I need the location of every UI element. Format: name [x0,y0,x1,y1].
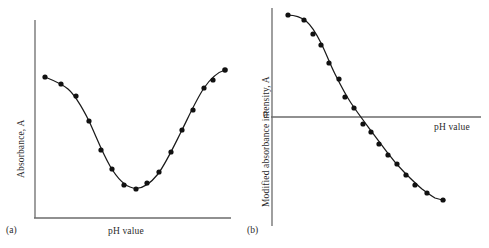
data-point [201,85,206,90]
data-points-a [42,67,227,191]
data-point [210,77,215,82]
data-point [440,197,445,202]
data-point [376,141,381,146]
panel-caption-b: (b) [247,225,258,235]
curve-a [45,70,225,188]
data-point [73,93,78,98]
data-point [351,105,356,110]
data-point [109,166,114,171]
plot-area-a [0,0,245,248]
figure-container: Absorbance, A pH value (a) [0,0,489,248]
data-point [133,186,138,191]
curve-b [288,15,445,200]
x-axis-label-b: pH value [434,122,470,132]
y-axis-label-a: Absorbance, A [16,120,26,178]
data-point [394,161,399,166]
data-point [326,60,331,65]
data-point [144,180,149,185]
panel-b: Modified absorbance intensity, A pH valu… [245,0,489,248]
data-point [368,129,373,134]
data-point [42,74,47,79]
data-point [301,17,306,22]
y-axis-zero-tick-b: 0 [263,110,268,120]
data-point [168,149,173,154]
data-points-b [285,12,445,202]
data-point [424,190,429,195]
panel-a: Absorbance, A pH value (a) [0,0,245,248]
data-point [342,94,347,99]
data-point [318,42,323,47]
data-point [121,182,126,187]
data-point [86,118,91,123]
data-point [190,107,195,112]
data-point [360,121,365,126]
data-point [222,67,228,73]
data-point [179,127,184,132]
data-point [403,172,408,177]
data-point [385,152,390,157]
data-point [98,147,103,152]
data-point [310,31,315,36]
data-point [285,12,290,17]
data-point [412,182,417,187]
data-point [336,76,341,81]
x-axis-label-a: pH value [108,226,144,236]
y-axis-label-b: Modified absorbance intensity, A [261,76,271,207]
data-point [58,81,63,86]
data-point [156,169,161,174]
panel-caption-a: (a) [6,225,17,235]
